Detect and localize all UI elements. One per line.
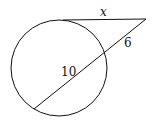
circle [11,20,107,116]
diagram-canvas [0,0,155,129]
chord-label: 10 [61,66,76,78]
secant-segment [34,19,146,109]
external-secant-label: 6 [124,37,132,49]
tangent-label: x [100,6,107,18]
tangent-segment [63,19,146,20]
